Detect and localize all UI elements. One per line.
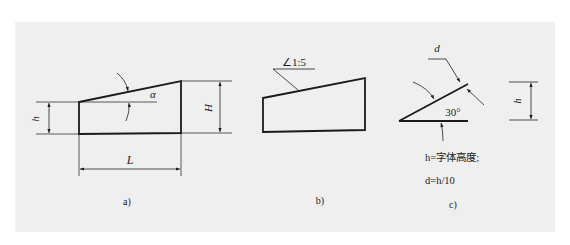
taper-shape-a bbox=[79, 81, 181, 134]
part-a: h H L α a) bbox=[29, 73, 232, 208]
label-alpha: α bbox=[150, 88, 156, 100]
label-H: H bbox=[202, 103, 214, 113]
caption-a: a) bbox=[123, 196, 131, 208]
angle-arc-c-upper bbox=[413, 82, 434, 99]
angle-arc-lower bbox=[126, 103, 129, 121]
angle-arc-c-lower bbox=[441, 123, 443, 141]
d-arrow-lower bbox=[467, 89, 484, 105]
label-h-c: h bbox=[512, 99, 523, 104]
d-leader-line bbox=[428, 59, 460, 82]
slope-symbol: ∠1:5 bbox=[282, 56, 307, 68]
taper-shape-b bbox=[263, 78, 365, 132]
slope-leader-line bbox=[273, 69, 315, 90]
part-c: d 30° h h=字体高度; d=h/10 c) bbox=[399, 42, 538, 211]
label-h: h bbox=[29, 116, 41, 122]
slope-taper-diagram: h H L α a) ∠1:5 b) d 30° bbox=[0, 0, 570, 245]
label-30deg: 30° bbox=[445, 106, 460, 118]
angle-arc-upper bbox=[117, 73, 128, 91]
part-b: ∠1:5 b) bbox=[263, 56, 365, 207]
label-d: d bbox=[434, 42, 440, 54]
caption-c: c) bbox=[449, 199, 457, 211]
label-L: L bbox=[126, 153, 134, 167]
note-d: d=h/10 bbox=[425, 175, 455, 186]
note-h: h=字体高度; bbox=[425, 151, 479, 163]
caption-b: b) bbox=[316, 195, 324, 207]
